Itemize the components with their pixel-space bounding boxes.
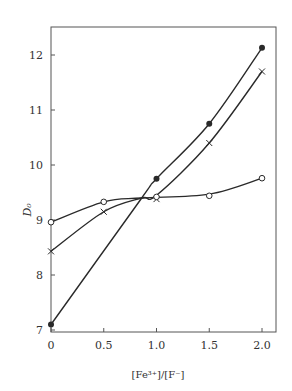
y-tick-label: 10	[29, 159, 43, 172]
data-markers	[48, 45, 265, 328]
marker-filled-circle	[259, 45, 265, 51]
marker-open-circle	[259, 175, 265, 181]
marker-filled-circle	[48, 322, 54, 328]
curve-cross	[51, 72, 262, 252]
x-tick-label: 0	[48, 339, 55, 352]
y-tick-label: 8	[36, 269, 43, 282]
x-tick-label: 2.0	[253, 339, 271, 352]
marker-filled-circle	[206, 121, 212, 127]
marker-cross	[206, 140, 212, 146]
marker-open-circle	[154, 194, 160, 200]
x-tick-label: 1.5	[201, 339, 219, 352]
curves	[51, 48, 262, 325]
y-axis-label: D₀	[21, 203, 34, 218]
curve-open-circle	[51, 178, 262, 222]
marker-open-circle	[101, 199, 107, 205]
plot-frame	[51, 27, 276, 332]
chart: 789101112 00.51.01.52.0 D₀ [Fe³⁺]/[F⁻]	[0, 0, 292, 391]
marker-open-circle	[206, 193, 212, 199]
marker-open-circle	[48, 219, 54, 225]
marker-filled-circle	[154, 176, 160, 182]
marker-cross	[259, 69, 265, 75]
y-tick-label: 11	[29, 104, 43, 117]
y-tick-label: 9	[36, 214, 43, 227]
curve-filled-circle	[51, 48, 262, 325]
x-tick-label: 0.5	[95, 339, 113, 352]
y-tick-label: 12	[29, 49, 43, 62]
marker-cross	[101, 209, 107, 215]
y-tick-label: 7	[36, 324, 43, 337]
x-axis-label: [Fe³⁺]/[F⁻]	[132, 369, 185, 380]
x-tick-label: 1.0	[148, 339, 166, 352]
